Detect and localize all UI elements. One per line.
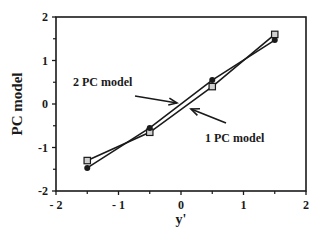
x-tick-label: 1 [241, 198, 247, 212]
y-tick-label: 2 [42, 10, 48, 24]
y-tick-label: -1 [38, 141, 48, 155]
y-tick-label: 0 [42, 97, 48, 111]
x-tick-label: - 1 [112, 198, 125, 212]
circle-marker [209, 77, 215, 83]
x-tick-label: - 2 [50, 198, 63, 212]
annotations: 2 PC model1 PC model [73, 75, 265, 145]
annotation-2pc-label: 2 PC model [73, 75, 133, 89]
square-marker [272, 31, 278, 37]
square-marker [209, 83, 215, 89]
x-tick-label: 0 [178, 198, 184, 212]
annotation-1pc-arrow [191, 109, 226, 123]
data-series [84, 31, 278, 171]
y-tick-label: 1 [42, 54, 48, 68]
series-line [87, 40, 275, 168]
annotation-1pc-label: 1 PC model [205, 131, 265, 145]
chart: - 2- 1012-2-1012y'PC model 2 PC model1 P… [0, 0, 324, 241]
circle-marker [272, 37, 278, 43]
circle-marker [84, 165, 90, 171]
square-marker [84, 157, 90, 163]
y-tick-label: -2 [38, 184, 48, 198]
y-axis-label: PC model [9, 73, 25, 136]
x-tick-label: 2 [303, 198, 309, 212]
x-axis-label: y' [176, 212, 187, 227]
circle-marker [147, 125, 153, 131]
